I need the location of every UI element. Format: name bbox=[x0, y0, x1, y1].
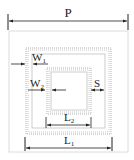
label-w1: W1 bbox=[32, 51, 46, 65]
label-l2: L2 bbox=[64, 111, 75, 125]
inner-ring bbox=[47, 68, 91, 114]
label-s: S bbox=[94, 77, 100, 89]
label-l1: L1 bbox=[64, 134, 75, 148]
dimension-w1: W1 bbox=[11, 51, 48, 65]
dimension-s: S bbox=[91, 77, 104, 90]
label-w2: W2 bbox=[30, 77, 44, 91]
label-p: P bbox=[64, 5, 71, 20]
dimension-p: P bbox=[8, 5, 128, 30]
dimension-l1: L1 bbox=[25, 134, 112, 151]
unit-cell-diagram: P W1 W2 S L2 L1 bbox=[0, 0, 134, 160]
